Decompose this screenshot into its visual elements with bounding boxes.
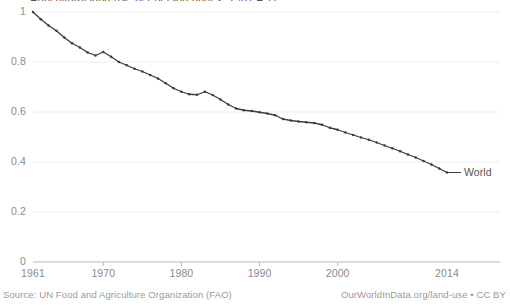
y-axis-tick-label: 0.8: [2, 55, 26, 67]
data-point[interactable]: [125, 64, 128, 67]
data-point[interactable]: [32, 11, 35, 14]
plot-area: [0, 0, 510, 305]
data-point[interactable]: [407, 153, 410, 156]
data-point[interactable]: [55, 30, 58, 33]
data-point[interactable]: [250, 110, 253, 113]
y-axis-tick-label: 0: [2, 255, 26, 267]
data-point[interactable]: [352, 134, 355, 137]
data-point[interactable]: [40, 18, 43, 21]
data-point[interactable]: [94, 54, 97, 57]
series-line-world: [33, 12, 447, 173]
data-point[interactable]: [383, 144, 386, 147]
data-point[interactable]: [86, 51, 89, 54]
data-point[interactable]: [211, 94, 214, 97]
data-point[interactable]: [133, 68, 136, 71]
y-axis-tick-label: 0.4: [2, 155, 26, 167]
data-point[interactable]: [165, 82, 168, 85]
data-point[interactable]: [243, 109, 246, 112]
data-point[interactable]: [290, 119, 293, 122]
data-point[interactable]: [391, 147, 394, 150]
data-point[interactable]: [313, 122, 316, 125]
data-point[interactable]: [375, 141, 378, 144]
data-point[interactable]: [368, 139, 371, 142]
data-point[interactable]: [79, 46, 82, 49]
source-note: Source: UN Food and Agriculture Organiza…: [3, 289, 232, 300]
data-point[interactable]: [227, 103, 230, 106]
data-point[interactable]: [71, 42, 74, 45]
data-point[interactable]: [180, 91, 183, 94]
data-point[interactable]: [157, 77, 160, 80]
data-point[interactable]: [219, 98, 222, 101]
x-axis-tick-label: 2014: [422, 267, 472, 279]
data-point[interactable]: [266, 112, 269, 115]
data-point[interactable]: [297, 120, 300, 123]
data-point[interactable]: [102, 51, 105, 54]
y-axis-tick-label: 1: [2, 5, 26, 17]
data-point[interactable]: [118, 61, 121, 64]
x-axis-tick-label: 1980: [156, 267, 206, 279]
data-point[interactable]: [172, 87, 175, 90]
x-axis-ticks: [103, 262, 337, 266]
x-axis-tick-label: 2000: [313, 267, 363, 279]
attribution-note[interactable]: OurWorldInData.org/land-use • CC BY: [341, 289, 506, 300]
data-point[interactable]: [415, 156, 418, 159]
data-point[interactable]: [305, 121, 308, 124]
data-point[interactable]: [360, 136, 363, 139]
data-point[interactable]: [329, 127, 332, 130]
x-axis-tick-label: 1990: [235, 267, 285, 279]
data-point[interactable]: [399, 150, 402, 153]
data-point[interactable]: [430, 163, 433, 166]
data-point[interactable]: [438, 167, 441, 170]
data-point[interactable]: [204, 91, 207, 94]
data-point[interactable]: [258, 111, 261, 114]
data-point[interactable]: [422, 160, 425, 163]
series-label-world[interactable]: World: [464, 166, 492, 178]
data-point[interactable]: [282, 118, 285, 121]
data-point[interactable]: [235, 107, 238, 110]
gridlines: [33, 12, 500, 212]
x-axis-tick-label: 1961: [8, 267, 58, 279]
data-point[interactable]: [63, 36, 66, 39]
data-point[interactable]: [336, 129, 339, 132]
data-point[interactable]: [110, 56, 113, 59]
series-lines: [33, 12, 447, 173]
y-axis-tick-label: 0.2: [2, 205, 26, 217]
data-point[interactable]: [274, 114, 277, 117]
data-point[interactable]: [344, 131, 347, 134]
y-axis-tick-label: 0.6: [2, 105, 26, 117]
data-point[interactable]: [47, 24, 50, 27]
data-point[interactable]: [149, 74, 152, 77]
data-point[interactable]: [321, 124, 324, 127]
chart-container: Agricultural land use per person (index,…: [0, 0, 510, 305]
data-point[interactable]: [141, 70, 144, 73]
x-axis-tick-label: 1970: [78, 267, 128, 279]
data-point[interactable]: [196, 94, 199, 97]
series-points: [32, 11, 449, 174]
data-point[interactable]: [188, 93, 191, 96]
